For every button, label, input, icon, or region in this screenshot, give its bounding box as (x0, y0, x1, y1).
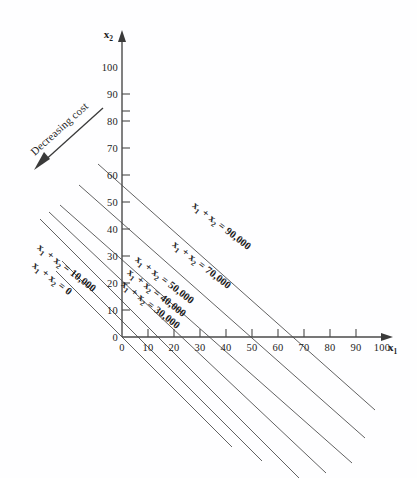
y-tick-label-80: 80 (107, 116, 118, 127)
y-tick-label-100: 100 (102, 62, 118, 73)
y-tick-label-20: 20 (107, 278, 118, 289)
x-tick-label-80: 80 (325, 342, 336, 353)
y-tick-label-40: 40 (107, 224, 118, 235)
y-tick-label-0: 0 (113, 332, 118, 343)
x-axis-arrow-icon (381, 333, 393, 341)
y-tick-label-60: 60 (107, 170, 118, 181)
x-tick-label-60: 60 (273, 342, 284, 353)
x-axis-ticks (148, 329, 356, 337)
x-tick-label-70: 70 (299, 342, 310, 353)
iso-cost-line-50000 (60, 205, 352, 463)
x-tick-label-10: 10 (143, 342, 154, 353)
x-tick-label-100: 100 (374, 342, 390, 353)
x-tick-label-40: 40 (221, 342, 232, 353)
x-tick-label-50: 50 (247, 342, 258, 353)
y-tick-label-50: 50 (107, 197, 118, 208)
y-axis-label: x2 (104, 28, 113, 43)
y-tick-label-70: 70 (107, 143, 118, 154)
y-axis-arrow-icon (118, 30, 126, 42)
x-tick-label-0: 0 (119, 342, 124, 353)
y-tick-label-90: 90 (107, 89, 118, 100)
x-tick-label-20: 20 (169, 342, 180, 353)
plot-canvas (0, 0, 417, 478)
y-tick-label-10: 10 (107, 305, 118, 316)
x-tick-label-30: 30 (195, 342, 206, 353)
x-tick-label-90: 90 (351, 342, 362, 353)
iso-cost-lines-figure: x2 x1 0 10 20 30 40 50 60 70 80 90 100 0… (0, 0, 417, 478)
y-tick-label-30: 30 (107, 251, 118, 262)
